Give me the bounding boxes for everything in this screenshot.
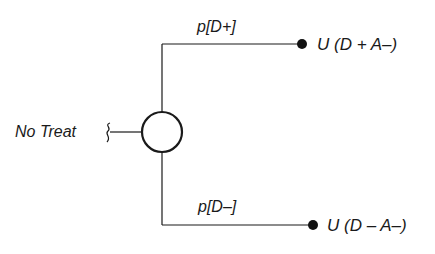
squiggle-icon xyxy=(107,123,110,142)
probability-label-d-minus: p[D–] xyxy=(198,199,236,215)
chance-node-icon xyxy=(142,112,182,152)
terminal-node-icon-d-plus xyxy=(297,39,307,49)
outcome-label-d-minus: U (D – A–) xyxy=(327,217,407,234)
outcome-label-d-plus: U (D + A–) xyxy=(317,36,397,53)
probability-label-d-plus: p[D+] xyxy=(197,19,236,35)
terminal-node-icon-d-minus xyxy=(308,220,318,230)
root-label: No Treat xyxy=(15,124,76,140)
